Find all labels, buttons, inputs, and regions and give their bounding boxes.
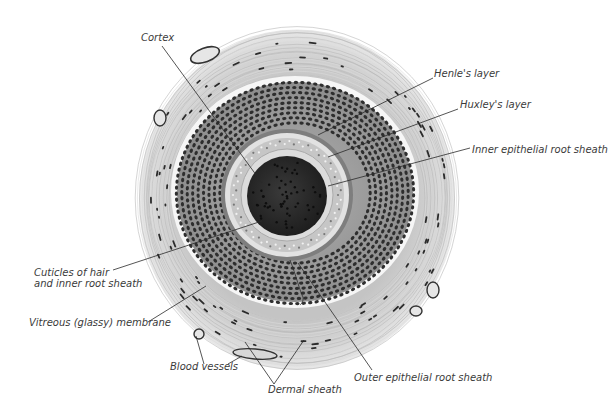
dermal-nucleus bbox=[150, 197, 152, 204]
cortex-cell bbox=[307, 204, 309, 206]
huxley-cell bbox=[302, 242, 304, 244]
huxley-cell bbox=[252, 236, 254, 238]
cortex-cell bbox=[285, 191, 287, 193]
huxley-cell bbox=[235, 189, 237, 191]
huxley-cell bbox=[335, 217, 337, 219]
cortex-cell bbox=[316, 213, 318, 215]
outer-sheath-nucleus bbox=[175, 191, 178, 195]
huxley-cell bbox=[240, 216, 242, 218]
huxley-cell bbox=[340, 189, 342, 191]
label-huxley-layer: Huxley's layer bbox=[460, 99, 532, 110]
cortex-cell bbox=[262, 195, 264, 197]
label-dermal-sheath: Dermal sheath bbox=[268, 384, 342, 395]
cortex-cell bbox=[286, 227, 288, 229]
cortex-cell bbox=[274, 164, 276, 166]
cortex-cell bbox=[294, 169, 296, 171]
cortex-cell bbox=[265, 202, 267, 204]
cortex-cell bbox=[296, 173, 298, 175]
huxley-cell bbox=[310, 149, 312, 151]
outer-sheath-nucleus bbox=[191, 191, 194, 195]
dermal-nucleus bbox=[289, 68, 293, 70]
label-outer-epithelial-root-sheath: Outer epithelial root sheath bbox=[354, 372, 492, 383]
label-cortex: Cortex bbox=[141, 32, 174, 43]
huxley-cell bbox=[237, 207, 239, 209]
huxley-cell bbox=[258, 236, 260, 238]
label-blood-vessels: Blood vessels bbox=[170, 361, 238, 372]
huxley-cell bbox=[260, 146, 262, 148]
cortex-cell bbox=[252, 191, 254, 193]
cortex-cell bbox=[268, 183, 270, 185]
huxley-cell bbox=[269, 245, 271, 247]
huxley-cell bbox=[324, 227, 326, 229]
cortex-cell bbox=[286, 212, 288, 214]
label-henle-layer: Henle's layer bbox=[434, 68, 500, 79]
huxley-cell bbox=[284, 143, 286, 145]
leader-blood-vessel-1 bbox=[196, 336, 204, 364]
cortex-cell bbox=[285, 220, 287, 222]
cortex-cell bbox=[280, 205, 282, 207]
huxley-cell bbox=[330, 220, 332, 222]
huxley-cell bbox=[232, 194, 234, 196]
outer-sheath-nucleus bbox=[293, 101, 297, 104]
huxley-cell bbox=[323, 233, 325, 235]
huxley-cell bbox=[260, 241, 262, 243]
huxley-cell bbox=[310, 239, 312, 241]
outer-sheath-nucleus bbox=[293, 261, 297, 264]
dermal-nucleus bbox=[164, 203, 166, 206]
cortex-cell bbox=[288, 214, 290, 216]
cortex-cell bbox=[282, 202, 284, 204]
label-vitreous-membrane: Vitreous (glassy) membrane bbox=[29, 317, 171, 328]
cortex-cell bbox=[284, 183, 286, 185]
huxley-cell bbox=[235, 198, 237, 200]
huxley-cell bbox=[240, 166, 242, 168]
huxley-cell bbox=[233, 204, 235, 206]
huxley-cell bbox=[240, 172, 242, 174]
huxley-cell bbox=[298, 247, 300, 249]
blood-vessel bbox=[154, 110, 166, 126]
hair-follicle-diagram: Cortex Henle's layer Huxley's layer Inne… bbox=[0, 0, 616, 408]
label-inner-epithelial-root-sheath: Inner epithelial root sheath bbox=[472, 144, 608, 155]
huxley-cell bbox=[337, 194, 339, 196]
cortex-cell bbox=[297, 202, 299, 204]
cortex-cell bbox=[281, 167, 283, 169]
huxley-cell bbox=[245, 229, 247, 231]
huxley-cell bbox=[318, 154, 320, 156]
huxley-cell bbox=[323, 155, 325, 157]
cortex-cell bbox=[312, 186, 314, 188]
cortex-cell bbox=[260, 217, 262, 219]
huxley-cell bbox=[318, 234, 320, 236]
huxley-cell bbox=[279, 247, 281, 249]
dermal-nucleus bbox=[299, 56, 306, 58]
cortex-cell bbox=[290, 180, 292, 182]
huxley-cell bbox=[330, 162, 332, 164]
huxley-cell bbox=[279, 140, 281, 142]
cortex-cell bbox=[260, 215, 262, 217]
outer-sheath-nucleus bbox=[202, 191, 205, 195]
blood-vessel bbox=[194, 329, 204, 339]
huxley-cell bbox=[235, 175, 237, 177]
huxley-cell bbox=[316, 239, 318, 241]
huxley-cell bbox=[233, 184, 235, 186]
cortex-cell bbox=[312, 206, 314, 208]
huxley-cell bbox=[293, 244, 295, 246]
cortex-cell bbox=[275, 221, 277, 223]
cortex-cell bbox=[284, 170, 286, 172]
outer-sheath-nucleus bbox=[293, 121, 297, 124]
huxley-cell bbox=[284, 245, 286, 247]
label-cuticles-line-2: and inner root sheath bbox=[34, 278, 142, 289]
huxley-cell bbox=[251, 231, 253, 233]
huxley-cell bbox=[298, 141, 300, 143]
cortex-cell bbox=[314, 191, 316, 193]
cortex-cell bbox=[296, 162, 298, 164]
huxley-cell bbox=[258, 151, 260, 153]
huxley-cell bbox=[334, 176, 336, 178]
blood-vessel bbox=[427, 282, 439, 298]
cortex-cell bbox=[291, 226, 293, 228]
huxley-cell bbox=[235, 213, 237, 215]
outer-sheath-nucleus bbox=[292, 282, 296, 285]
outer-sheath-nucleus bbox=[293, 106, 297, 109]
huxley-cell bbox=[288, 140, 290, 142]
cortex-cell bbox=[280, 180, 282, 182]
label-cuticles-line-1: Cuticles of hair bbox=[34, 267, 110, 278]
cortex-cell bbox=[264, 205, 266, 207]
